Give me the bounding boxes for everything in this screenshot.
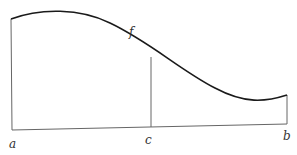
a-label: a <box>9 137 16 151</box>
left-vertical-line <box>11 19 12 130</box>
area-under-curve-diagram: f a c b <box>0 0 297 155</box>
b-label: b <box>283 129 291 143</box>
c-label: c <box>145 133 152 147</box>
function-curve <box>11 11 287 100</box>
baseline-axis <box>12 124 287 130</box>
